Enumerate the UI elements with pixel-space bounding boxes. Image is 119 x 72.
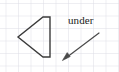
diagram-canvas: under [0, 0, 119, 72]
under-annotation-label: under [68, 15, 94, 26]
graph-paper-grid [0, 0, 119, 72]
figure-svg [0, 0, 119, 72]
